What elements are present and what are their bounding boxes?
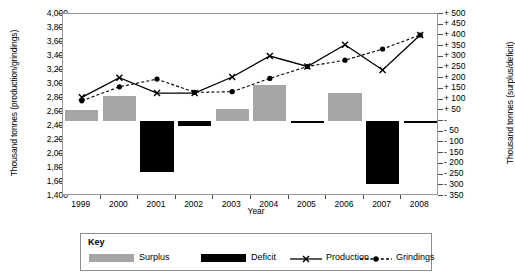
x-tick-label-2004: 2004 <box>250 200 288 209</box>
x-tick-label-2001: 2001 <box>137 200 175 209</box>
y-right-tick-label: - 250 <box>444 169 488 178</box>
marker-production-2003 <box>229 74 235 80</box>
marker-grindings-2003 <box>230 89 235 94</box>
y-axis-left-title: Thousand tonnes (production/grindings) <box>9 3 19 203</box>
y-right-tick-mark <box>438 88 443 89</box>
y-right-tick-mark <box>438 67 443 68</box>
marker-grindings-2006 <box>342 58 347 63</box>
marker-grindings-2007 <box>380 46 385 51</box>
marker-grindings-2001 <box>154 77 159 82</box>
series-lines-layer <box>63 14 438 195</box>
y-right-tick-mark <box>438 13 443 14</box>
x-tick-label-2000: 2000 <box>100 200 138 209</box>
y-axis-right-title: Thousand tonnes (surplus/deficit) <box>505 3 515 203</box>
legend-line-production <box>289 251 323 263</box>
y-right-tick-mark <box>438 45 443 46</box>
y-right-tick-label: + 200 <box>444 73 488 82</box>
y-right-tick-mark <box>438 131 443 132</box>
legend-label-grindings: Grindings <box>396 252 435 262</box>
y-right-tick-mark <box>438 141 443 142</box>
y-right-tick-mark <box>438 24 443 25</box>
y-right-tick-label: + 500 <box>444 9 488 18</box>
y-right-tick-mark <box>438 120 443 121</box>
x-tick-label-2005: 2005 <box>288 200 326 209</box>
y-right-tick-mark <box>438 174 443 175</box>
y-right-tick-mark <box>438 109 443 110</box>
marker-production-2006 <box>342 42 348 48</box>
x-tick-mark <box>137 195 138 199</box>
x-tick-label-1999: 1999 <box>62 200 100 209</box>
x-tick-label-2003: 2003 <box>212 200 250 209</box>
y-right-tick-mark <box>438 184 443 185</box>
legend-label-surplus: Surplus <box>139 252 170 262</box>
x-tick-label-2006: 2006 <box>325 200 363 209</box>
y-right-tick-mark <box>438 152 443 153</box>
legend-title: Key <box>88 237 105 247</box>
x-tick-label-2008: 2008 <box>400 200 438 209</box>
y-right-tick-label: - 300 <box>444 180 488 189</box>
x-tick-label-2002: 2002 <box>175 200 213 209</box>
x-tick-label-2007: 2007 <box>363 200 401 209</box>
y-right-tick-mark <box>438 163 443 164</box>
line-grindings <box>82 35 420 101</box>
y-right-tick-label: + 250 <box>444 62 488 71</box>
x-tick-mark <box>400 195 401 199</box>
y-right-tick-label: + 150 <box>444 83 488 92</box>
marker-grindings-2008 <box>418 32 423 37</box>
y-right-tick-label: + 50 <box>444 105 488 114</box>
legend-label-deficit: Deficit <box>251 252 276 262</box>
y-right-tick-mark <box>438 34 443 35</box>
y-right-tick-label: + 450 <box>444 19 488 28</box>
plot-area <box>62 13 438 195</box>
y-right-tick-label: + 350 <box>444 41 488 50</box>
x-tick-mark <box>212 195 213 199</box>
y-right-tick-mark <box>438 77 443 78</box>
marker-grindings-2000 <box>117 84 122 89</box>
legend-box: Key SurplusDeficitProductionGrindings <box>80 233 432 271</box>
y-right-tick-label: - 350 <box>444 191 488 200</box>
marker-grindings-2005 <box>305 64 310 69</box>
x-tick-mark <box>363 195 364 199</box>
marker-grindings-1999 <box>79 98 84 103</box>
x-tick-mark <box>325 195 326 199</box>
y-right-tick-label: + 400 <box>444 30 488 39</box>
y-right-tick-mark <box>438 56 443 57</box>
y-right-tick-mark <box>438 195 443 196</box>
marker-production-2000 <box>116 75 122 81</box>
y-right-tick-label: - 150 <box>444 148 488 157</box>
marker-grindings-2004 <box>267 76 272 81</box>
line-production <box>82 35 420 97</box>
x-tick-mark <box>250 195 251 199</box>
y-right-tick-label: - <box>444 116 488 125</box>
marker-grindings-2002 <box>192 90 197 95</box>
y-right-tick-label: - 200 <box>444 158 488 167</box>
y-right-tick-label: + 300 <box>444 51 488 60</box>
y-right-tick-label: - 100 <box>444 137 488 146</box>
x-tick-mark <box>175 195 176 199</box>
x-tick-mark <box>100 195 101 199</box>
x-tick-mark <box>288 195 289 199</box>
marker-production-2007 <box>380 67 386 73</box>
legend-swatch-surplus <box>89 254 134 262</box>
y-right-tick-mark <box>438 99 443 100</box>
legend-swatch-deficit <box>201 254 246 262</box>
y-right-tick-label: + 100 <box>444 94 488 103</box>
legend-line-grindings <box>359 251 393 263</box>
y-right-tick-label: - 50 <box>444 126 488 135</box>
